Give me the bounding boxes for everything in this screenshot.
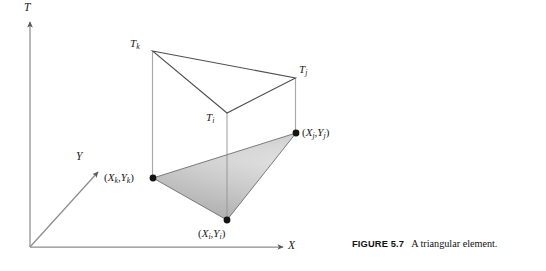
figure-caption-label: FIGURE 5.7 — [352, 239, 404, 249]
axis-group — [30, 22, 283, 247]
figure-caption: FIGURE 5.7A triangular element. — [352, 233, 497, 251]
temperature-triangle-group — [153, 51, 296, 113]
node-dot-i — [224, 217, 231, 224]
node-dot-j — [293, 130, 300, 137]
coord-label-i: (Xi,Yi) — [198, 228, 225, 241]
x-axis-label: X — [288, 240, 295, 252]
temperature-triangle-outline — [153, 51, 296, 113]
coord-label-j: (Xj,Yj) — [302, 127, 329, 140]
node-label-ti: Ti — [206, 112, 214, 125]
y-axis-label: Y — [76, 151, 82, 163]
figure-container: T X Y Tk Tj Ti (Xj,Yj) (Xk,Yk) (Xi,Yi) F… — [0, 0, 546, 271]
y-axis-label-text: Y — [76, 150, 82, 162]
figure-caption-text: A triangular element. — [411, 238, 497, 249]
coord-label-k: (Xk,Yk) — [104, 172, 134, 185]
node-label-tk-sub: k — [136, 42, 140, 51]
figure-drawing — [0, 0, 546, 271]
coord-label-j-close: ) — [326, 126, 330, 138]
node-label-tj-sub: j — [305, 68, 307, 77]
t-axis-label: T — [24, 2, 30, 14]
coord-label-i-close: ) — [222, 227, 226, 239]
x-axis-label-text: X — [288, 239, 295, 251]
coord-label-k-close: ) — [130, 171, 134, 183]
y-axis-line — [30, 172, 98, 247]
base-triangle-shading-overlay — [153, 133, 296, 220]
node-dot-k — [150, 175, 157, 182]
base-triangle-group — [153, 133, 296, 220]
node-label-tj: Tj — [299, 64, 307, 77]
node-label-tk: Tk — [130, 38, 140, 51]
t-axis-label-text: T — [24, 1, 30, 13]
node-label-ti-sub: i — [212, 116, 214, 125]
